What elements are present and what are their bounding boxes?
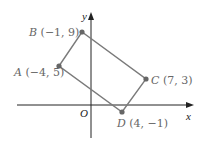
point-c-coords: (7, 3)	[163, 74, 193, 87]
label-c: C (7, 3)	[151, 74, 193, 87]
svg-text:B (−1, 9): B (−1, 9)	[28, 26, 79, 39]
point-a-name: A	[13, 66, 22, 79]
y-axis	[88, 12, 94, 138]
point-b-coords: (−1, 9)	[41, 26, 80, 39]
vertex-b	[79, 29, 84, 34]
point-c-name: C	[151, 74, 160, 87]
svg-text:A (−4, 5): A (−4, 5)	[13, 66, 64, 79]
label-b: B (−1, 9)	[28, 26, 79, 39]
x-axis-arrow-icon	[186, 102, 194, 108]
vertex-c	[143, 76, 148, 81]
x-axis-label: x	[185, 110, 191, 122]
vertex-d	[119, 109, 124, 114]
point-d-name: D	[116, 117, 126, 130]
svg-text:D (4, −1): D (4, −1)	[116, 117, 168, 130]
rectangle-abcd	[59, 32, 146, 112]
label-d: D (4, −1)	[116, 117, 168, 130]
x-axis	[17, 102, 194, 108]
point-d-coords: (4, −1)	[129, 117, 168, 130]
y-axis-label: y	[81, 10, 87, 22]
label-a: A (−4, 5)	[13, 66, 64, 79]
y-axis-arrow-icon	[88, 12, 94, 20]
point-a-coords: (−4, 5)	[25, 66, 64, 79]
point-b-name: B	[28, 26, 37, 39]
svg-text:C (7, 3): C (7, 3)	[151, 74, 193, 87]
coordinate-diagram: y x O B (−1, 9) A (−4, 5) C (7, 3) D (4,…	[0, 0, 202, 145]
origin-label: O	[80, 107, 88, 119]
